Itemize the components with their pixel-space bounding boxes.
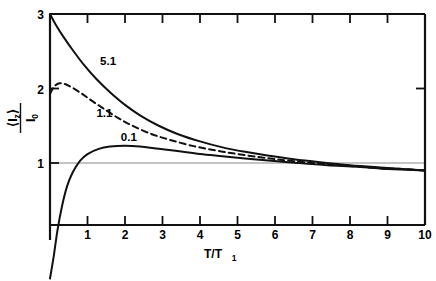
x-tick-label-4: 4 — [197, 228, 204, 242]
chart-canvas: 12345678910 123 5.1 1.1 0.1 T/T 1 ⟨Iz⟩ I… — [0, 0, 436, 281]
curve-label-1-1: 1.1 — [96, 107, 113, 119]
y-tick-label-3: 3 — [37, 8, 44, 22]
y-axis-denominator-subscript: 0 — [30, 114, 40, 119]
x-tick-label-6: 6 — [272, 228, 279, 242]
x-tick-label-10: 10 — [418, 228, 432, 242]
x-tick-label-2: 2 — [122, 228, 129, 242]
curve-label-0-1: 0.1 — [121, 131, 138, 143]
y-tick-label-2: 2 — [37, 83, 44, 97]
x-tick-label-5: 5 — [234, 228, 241, 242]
y-tick-label-1: 1 — [37, 157, 44, 171]
y-axis-numerator-open: ⟨I — [6, 118, 20, 126]
x-axis-title-subscript: 1 — [232, 253, 237, 263]
canvas-background — [0, 0, 436, 281]
figure-container: 12345678910 123 5.1 1.1 0.1 T/T 1 ⟨Iz⟩ I… — [0, 0, 436, 281]
x-tick-label-8: 8 — [347, 228, 354, 242]
x-tick-label-3: 3 — [159, 228, 166, 242]
y-axis-numerator-close: ⟩ — [6, 109, 20, 114]
curve-label-5-1: 5.1 — [100, 55, 117, 67]
x-tick-label-1: 1 — [84, 228, 91, 242]
x-tick-label-7: 7 — [309, 228, 316, 242]
x-axis-title-text: T/T — [204, 247, 223, 261]
x-tick-label-9: 9 — [384, 228, 391, 242]
